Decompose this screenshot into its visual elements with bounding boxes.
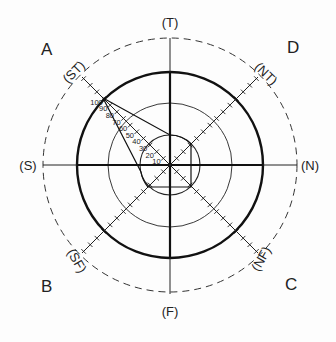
axis-label-s: (S): [19, 158, 36, 173]
diagram-stage: 102030405060708090100 A D B C (T) (F) (S…: [0, 0, 336, 342]
axis-label-n: (N): [301, 158, 319, 173]
scale-label: 100: [90, 98, 103, 107]
quadrant-label-d: D: [287, 38, 299, 57]
quadrant-label-c: C: [285, 275, 297, 294]
scale-labels: 102030405060708090100: [90, 98, 160, 167]
axis-label-f: (F): [162, 304, 179, 319]
axis-label-nf: (NF): [248, 244, 274, 274]
axis-label-t: (T): [162, 15, 179, 30]
quadrant-label-b: B: [41, 277, 52, 296]
axis-label-st: (ST): [60, 58, 88, 86]
polar-diagram: 102030405060708090100 A D B C (T) (F) (S…: [0, 0, 336, 342]
axis-label-nt: (NT): [252, 59, 281, 88]
axis-label-sf: (SF): [64, 246, 90, 275]
quadrant-label-a: A: [41, 40, 53, 59]
